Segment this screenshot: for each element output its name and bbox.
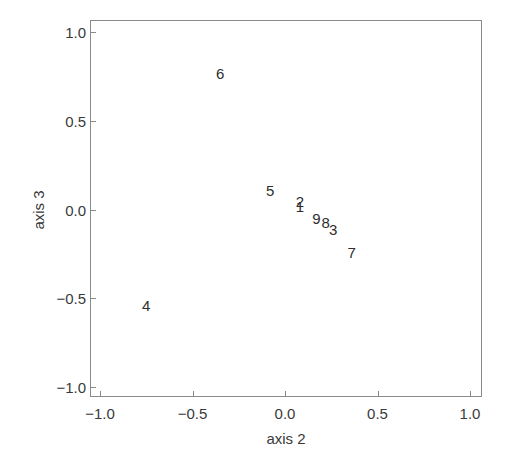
y-tick-label: 1.0 (65, 24, 86, 41)
y-tick (90, 32, 96, 33)
x-tick (378, 391, 379, 397)
point-label-2: 2 (296, 193, 304, 208)
y-tick (90, 121, 96, 122)
point-label-3: 3 (329, 222, 337, 237)
x-axis-label: axis 2 (266, 430, 305, 447)
x-tick (285, 391, 286, 397)
point-label-6: 6 (216, 65, 224, 80)
x-tick (100, 391, 101, 397)
y-tick (90, 298, 96, 299)
y-tick-label: 0.5 (65, 112, 86, 129)
x-tick-label: 0.5 (367, 405, 388, 422)
plot-frame (90, 20, 482, 397)
x-tick-label: −1.0 (85, 405, 115, 422)
point-label-5: 5 (266, 182, 274, 197)
point-label-4: 4 (142, 298, 150, 313)
point-label-7: 7 (347, 245, 355, 260)
y-tick (90, 387, 96, 388)
x-tick-label: 0.0 (275, 405, 296, 422)
y-tick (90, 210, 96, 211)
y-axis-label: axis 3 (30, 190, 47, 229)
scatter-plot: −1.0−0.50.00.51.0 1.00.50.0−0.5−1.0 axis… (0, 0, 512, 468)
x-tick-label: 1.0 (460, 405, 481, 422)
point-label-9: 9 (312, 211, 320, 226)
y-tick-label: 0.0 (65, 201, 86, 218)
point-label-8: 8 (322, 214, 330, 229)
y-tick-label: −0.5 (56, 290, 86, 307)
x-tick (193, 391, 194, 397)
y-tick-label: −1.0 (56, 379, 86, 396)
x-tick-label: −0.5 (178, 405, 208, 422)
x-tick (470, 391, 471, 397)
